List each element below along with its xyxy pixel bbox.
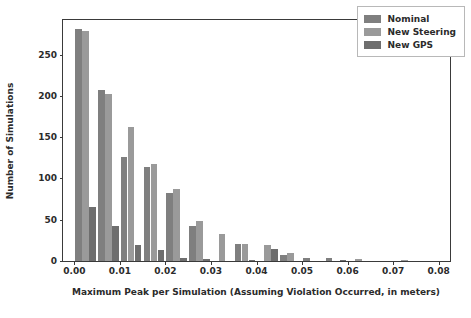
bar-new-steering [151,164,158,261]
bar-nominal [98,90,105,261]
legend-swatch-icon [364,28,381,36]
bar-nominal [303,258,310,261]
x-tick-label: 0.03 [200,267,222,276]
legend-swatch-icon [364,41,381,49]
legend-label: New GPS [388,40,434,50]
bar-nominal [280,255,287,261]
x-tick-mark [120,261,121,265]
y-tick-mark [60,178,64,179]
y-tick-label: 100 [38,174,57,183]
bar-new-steering [355,259,362,261]
x-tick-label: 0.08 [428,267,450,276]
legend-item[interactable]: New Steering [364,25,456,38]
bar-new-gps [135,245,142,261]
legend-item[interactable]: Nominal [364,12,456,25]
bar-new-steering [173,189,180,261]
y-tick-mark [60,220,64,221]
bar-new-steering [242,244,249,261]
bar-new-steering [128,127,135,261]
bar-new-gps [203,259,210,261]
histogram-figure: Number of Simulations Maximum Peak per S… [0,0,471,318]
y-tick-mark [60,96,64,97]
legend: NominalNew SteeringNew GPS [357,6,465,57]
x-tick-mark [348,261,349,265]
bar-new-gps [249,260,256,261]
bar-new-steering [264,245,271,261]
y-tick-mark [60,55,64,56]
bar-new-steering [82,31,89,261]
bar-new-steering [105,94,112,261]
y-tick-mark [60,261,64,262]
y-tick-label: 150 [38,133,57,142]
x-tick-mark [74,261,75,265]
legend-swatch-icon [364,15,381,23]
bar-new-steering [219,234,226,261]
x-tick-label: 0.06 [336,267,358,276]
bar-nominal [166,193,173,262]
x-tick-mark [211,261,212,265]
x-tick-mark [302,261,303,265]
legend-item[interactable]: New GPS [364,38,456,51]
bar-new-gps [158,250,165,261]
x-axis-label: Maximum Peak per Simulation (Assuming Vi… [72,287,440,297]
x-tick-label: 0.04 [245,267,267,276]
legend-label: Nominal [388,14,430,24]
x-tick-label: 0.07 [382,267,404,276]
bar-new-steering [196,221,203,261]
bar-nominal [189,226,196,261]
x-tick-label: 0.05 [291,267,313,276]
x-tick-mark [393,261,394,265]
bar-nominal [75,29,82,261]
bar-nominal [326,258,333,261]
bar-new-steering [401,260,408,261]
bar-new-gps [89,207,96,261]
y-tick-label: 50 [44,215,57,224]
bar-new-steering [287,253,294,261]
x-tick-mark [257,261,258,265]
bar-nominal [121,157,128,261]
y-tick-mark [60,137,64,138]
x-tick-label: 0.02 [154,267,176,276]
x-tick-label: 0.00 [63,267,85,276]
bar-nominal [144,167,151,261]
bar-new-gps [340,260,347,261]
y-tick-label: 250 [38,50,57,59]
x-tick-mark [165,261,166,265]
y-tick-label: 200 [38,91,57,100]
bar-new-gps [180,258,187,261]
x-tick-label: 0.01 [109,267,131,276]
bar-nominal [235,244,242,261]
y-tick-label: 0 [51,257,57,266]
y-axis-label: Number of Simulations [5,83,15,200]
x-tick-mark [439,261,440,265]
bar-new-gps [271,249,278,261]
legend-label: New Steering [388,27,456,37]
bar-new-gps [112,226,119,261]
